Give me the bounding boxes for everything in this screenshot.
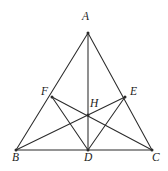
point-label-B: B — [12, 152, 19, 164]
point-label-E: E — [130, 86, 137, 98]
vertex-dot-e — [124, 96, 127, 99]
vertex-dot-f — [51, 96, 54, 99]
point-label-H: H — [90, 98, 98, 110]
vertex-dot-a — [87, 32, 90, 35]
chord-FD — [52, 97, 88, 150]
vertex-dot-h — [87, 114, 90, 117]
figure-canvas — [0, 0, 168, 171]
point-label-D: D — [84, 152, 92, 164]
point-label-A: A — [82, 11, 89, 23]
geometry-figure: A B C D E F H — [0, 0, 168, 171]
point-label-C: C — [152, 152, 160, 164]
point-label-F: F — [41, 86, 48, 98]
